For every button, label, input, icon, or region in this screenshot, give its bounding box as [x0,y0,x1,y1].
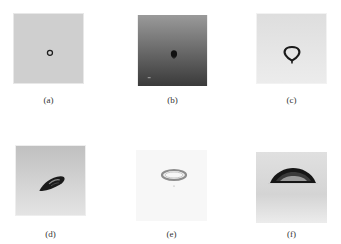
panel-c-caption: (c) [256,95,327,105]
panel-a-caption: (a) [13,95,84,105]
elongated-droplet-icon [16,146,85,215]
panel-d-image [15,145,86,216]
sessile-droplet-icon [256,152,327,223]
elliptical-ring-icon [136,150,207,221]
panel-b-caption: (b) [137,95,208,105]
teardrop-droplet-icon [257,14,326,83]
panel-e-image [136,150,207,221]
dark-droplet-icon [138,15,207,86]
panel-c-image [256,13,327,84]
panel-e-caption: (e) [136,229,207,239]
panel-f-image [256,152,327,223]
ring-droplet-icon [14,14,83,83]
panel-f-caption: (f) [256,229,327,239]
panel-a-image [13,13,84,84]
panel-d-caption: (d) [15,229,86,239]
panel-b-image [137,15,208,86]
